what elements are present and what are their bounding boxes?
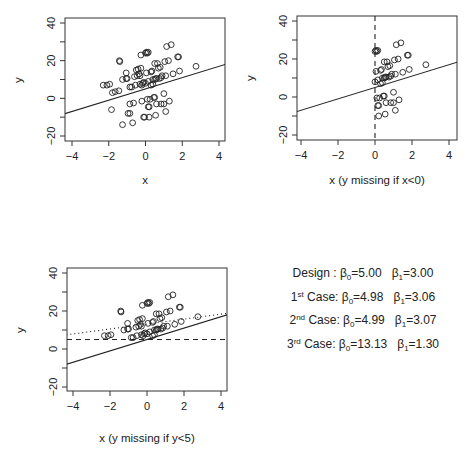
data-point (406, 67, 412, 73)
case-separator: Case: (304, 290, 342, 304)
x-tick-label: 2 (181, 400, 187, 412)
data-point (195, 314, 201, 320)
plot-frame (67, 268, 227, 391)
case-suffix: nd (296, 313, 305, 322)
case-separator: Case: (305, 313, 343, 327)
y-tick-label: 40 (47, 267, 59, 279)
legend-row-third-case: 3rd Case: β0=13.13β1=1.30 (258, 333, 468, 357)
data-point (423, 62, 429, 68)
y-tick-label: 20 (277, 53, 289, 65)
y-axis-title: y (12, 77, 24, 83)
y-tick-label: 20 (47, 305, 59, 317)
data-point (130, 120, 136, 126)
x-tick-label: 2 (409, 149, 415, 161)
legend-row-second-case: 2nd Case: β0=4.99β1=3.07 (258, 309, 468, 333)
data-point (125, 320, 131, 326)
x-tick-label: −2 (102, 150, 115, 162)
beta0-symbol: β (339, 337, 346, 351)
x-tick-label: −2 (332, 149, 345, 161)
x-tick-label: −4 (295, 149, 308, 161)
case-suffix: st (297, 290, 303, 299)
data-point (166, 58, 172, 64)
data-point (193, 63, 199, 69)
plot-panel-top-right: x (y missing if x<0) y −4−2024−2002040 (244, 15, 468, 186)
y-tick-label: 0 (277, 94, 289, 100)
data-point (164, 309, 170, 315)
x-tick-label: 0 (372, 149, 378, 161)
plot-area (55, 292, 240, 368)
beta0-value: =4.99 (354, 313, 384, 327)
x-tick-label: −2 (104, 400, 117, 412)
data-point (116, 88, 122, 94)
y-tick-label: 0 (45, 95, 57, 101)
case-separator: : (330, 266, 340, 280)
y-tick-label: −20 (47, 378, 59, 397)
data-point (392, 107, 398, 113)
beta1-subscript: 1 (400, 297, 404, 306)
x-tick-label: −4 (66, 150, 79, 162)
x-tick-label: 0 (142, 150, 148, 162)
beta1-value: =3.07 (406, 313, 436, 327)
y-axis-title: y (244, 75, 256, 81)
y-tick-label: 40 (45, 17, 57, 29)
beta1-value: =1.30 (409, 337, 439, 351)
beta0-value: =5.00 (351, 266, 381, 280)
plot-area (283, 16, 468, 140)
y-tick-label: 0 (47, 346, 59, 352)
plot-area (54, 42, 238, 128)
data-point (127, 101, 133, 107)
data-point (120, 122, 126, 128)
data-point (396, 97, 402, 103)
data-point (400, 69, 406, 75)
beta0-subscript: 0 (347, 273, 351, 282)
y-tick-label: −20 (277, 126, 289, 145)
beta1-value: =3.06 (405, 290, 435, 304)
beta1-symbol: β (395, 313, 402, 327)
x-tick-label: 2 (179, 150, 185, 162)
data-point (131, 100, 137, 106)
x-axis-title: x (y missing if y<5) (99, 432, 195, 444)
beta0-symbol: β (342, 290, 349, 304)
case-label: 3 (287, 337, 294, 351)
x-tick-label: 0 (144, 400, 150, 412)
beta0-value: =4.98 (353, 290, 383, 304)
beta0-subscript: 0 (349, 297, 353, 306)
data-point (167, 308, 173, 314)
beta1-subscript: 1 (404, 344, 408, 353)
case-separator: Case: (301, 337, 339, 351)
x-tick-label: 4 (218, 400, 224, 412)
beta1-value: =3.00 (403, 266, 433, 280)
y-axis-title: y (14, 327, 26, 333)
plot-panel-bottom-left: x (y missing if y<5) y −4−2024−2002040 (14, 267, 240, 444)
y-tick-label: 20 (45, 55, 57, 67)
data-point (382, 111, 388, 117)
case-label: Design (293, 266, 330, 280)
data-point (109, 107, 115, 113)
x-tick-label: 4 (446, 149, 452, 161)
beta0-symbol: β (340, 266, 347, 280)
figure: x y −4−2024−2002040 x (y missing if x<0)… (0, 0, 468, 450)
beta0-subscript: 0 (350, 320, 354, 329)
data-point (177, 68, 183, 74)
data-point (178, 319, 184, 325)
legend-row-design: Design : β0=5.00β1=3.00 (258, 262, 468, 286)
data-point (172, 321, 178, 327)
data-point (166, 98, 172, 104)
y-tick-label: 40 (277, 15, 289, 27)
data-point (392, 57, 398, 63)
y-tick-label: −20 (45, 127, 57, 146)
data-point (161, 91, 167, 97)
data-point (139, 98, 145, 104)
x-tick-label: 4 (216, 150, 222, 162)
data-point (170, 71, 176, 77)
data-point (153, 112, 159, 118)
beta1-subscript: 1 (399, 273, 403, 282)
x-tick-label: −4 (67, 400, 80, 412)
data-point (123, 70, 129, 76)
data-point (162, 59, 168, 65)
case-suffix: rd (294, 337, 301, 346)
beta0-value: =13.13 (350, 337, 387, 351)
beta1-symbol: β (392, 266, 399, 280)
x-axis-title: x (y missing if x<0) (329, 174, 425, 186)
x-axis-title: x (142, 174, 148, 186)
